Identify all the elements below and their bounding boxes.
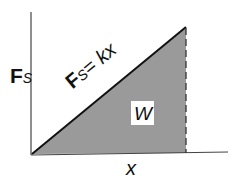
y-axis-label-subscript: S: [23, 70, 32, 86]
y-axis-label: FS: [10, 65, 32, 86]
x-axis-label: x: [126, 158, 136, 178]
diagram-graphics: [0, 0, 238, 184]
work-label: W: [134, 104, 152, 123]
y-axis-label-main: F: [10, 64, 23, 87]
diagram-canvas: FS x FS= kx W: [0, 0, 238, 184]
